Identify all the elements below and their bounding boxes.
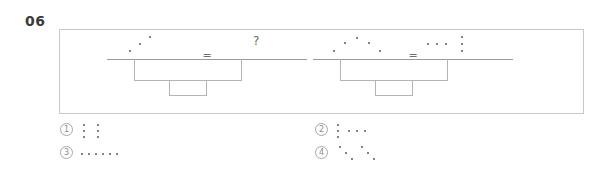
dot	[356, 130, 358, 132]
dot	[129, 50, 131, 52]
dot	[344, 42, 346, 44]
dot-pattern-two-descending-diagonals	[334, 143, 394, 163]
dot	[109, 153, 111, 155]
dot	[95, 153, 97, 155]
unknown-question-mark: ?	[217, 30, 295, 59]
dot	[83, 136, 85, 138]
dot	[461, 36, 463, 38]
dot	[351, 158, 353, 160]
dot	[436, 43, 438, 45]
dot	[83, 130, 85, 132]
dot	[367, 152, 369, 154]
dot	[102, 153, 104, 155]
dot	[461, 50, 463, 52]
dot	[427, 43, 429, 45]
dot	[445, 43, 447, 45]
dot	[149, 36, 151, 38]
stimulus-panel: = ? =	[59, 29, 584, 114]
dot	[364, 130, 366, 132]
dot	[333, 50, 335, 52]
dot-pattern-arch-5	[325, 30, 403, 59]
option-marker-4: 4	[315, 146, 328, 159]
dot-pattern-horizontal-row-6	[79, 143, 139, 163]
equation-bracket-box	[375, 81, 413, 96]
option-marker-1: 1	[60, 123, 73, 136]
option-marker-2: 2	[315, 123, 328, 136]
dot	[461, 43, 463, 45]
dot-pattern-ascending-diagonal-3	[119, 30, 197, 59]
dot	[337, 124, 339, 126]
dot-pattern-two-columns-of-3	[79, 120, 139, 140]
dot	[97, 136, 99, 138]
question-mark-label: ?	[253, 35, 259, 47]
equation-1: = ?	[107, 30, 307, 113]
dot	[368, 42, 370, 44]
dot	[345, 152, 347, 154]
dot	[81, 153, 83, 155]
dot	[83, 124, 85, 126]
dot	[97, 124, 99, 126]
equation-bracket-box	[169, 81, 207, 96]
equation-2: =	[313, 30, 513, 113]
dot	[97, 130, 99, 132]
dot	[339, 146, 341, 148]
question-number: 06	[25, 13, 45, 29]
equation-bracket	[340, 59, 448, 81]
dot	[373, 158, 375, 160]
dot	[337, 130, 339, 132]
dot	[337, 136, 339, 138]
dot	[116, 153, 118, 155]
dot	[139, 43, 141, 45]
equation-bracket	[134, 59, 242, 81]
dot-pattern-column3-plus-row3	[334, 120, 394, 140]
dot	[88, 153, 90, 155]
dot	[356, 37, 358, 39]
dot	[348, 130, 350, 132]
option-marker-3: 3	[60, 146, 73, 159]
dot-pattern-row3-plus-column3	[423, 30, 501, 59]
dot	[379, 50, 381, 52]
dot	[361, 146, 363, 148]
